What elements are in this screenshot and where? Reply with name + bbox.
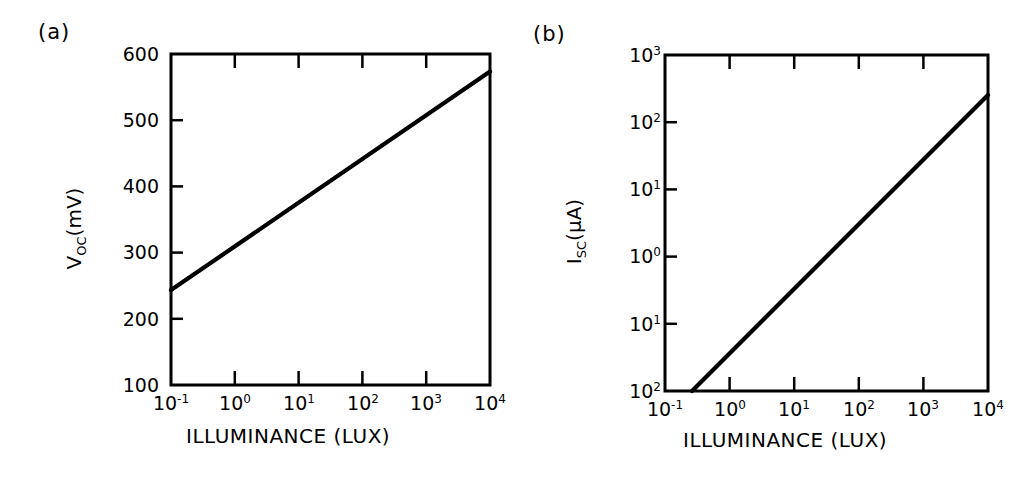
panel-b-xtick-1e3: 103 [893,398,953,420]
panel-b-ytick-1e1: 101 [603,178,661,200]
panel-a-xtick-1e-1: 10-1 [141,392,201,414]
panel-a-xtick-1e0: 100 [205,392,265,414]
panel-b-ytick-1e0: 100 [603,245,661,267]
panel-b-xtick-1e2: 102 [829,398,889,420]
panel-b-xtick-1e0: 100 [700,398,760,420]
panel-b-xtick-1e-1: 10-1 [635,398,695,420]
panel-b-ytick-1e3: 103 [603,44,661,66]
panel-a-ytick-500: 500 [97,109,159,131]
panel-b-ytick-1e2: 102 [603,111,661,133]
panel-a: (a) [0,0,515,484]
panel-a-ytick-300: 300 [97,241,159,263]
panel-b-xtick-1e4: 104 [958,398,1018,420]
panel-a-x-axis-title: ILLUMINANCE (LUX) [186,424,390,448]
figure-root: (a) [0,0,1031,484]
panel-a-ytick-200: 200 [97,308,159,330]
panel-b-xtick-1e1: 101 [764,398,824,420]
panel-a-xtick-1e3: 103 [396,392,456,414]
panel-a-ytick-600: 600 [97,43,159,65]
panel-b: (b) [515,0,1031,484]
panel-b-axes-frame [665,55,988,391]
panel-a-xtick-1e1: 101 [269,392,329,414]
panel-a-xtick-1e4: 104 [460,392,520,414]
panel-a-xtick-1e2: 102 [333,392,393,414]
panel-b-ytick-1e-1: 101 [603,313,661,335]
panel-a-ytick-400: 400 [97,175,159,197]
panel-a-y-axis-title: VOC(mV) [62,149,89,309]
panel-b-y-axis-title: ISC(μA) [562,152,589,312]
panel-b-x-axis-title: ILLUMINANCE (LUX) [683,428,887,452]
